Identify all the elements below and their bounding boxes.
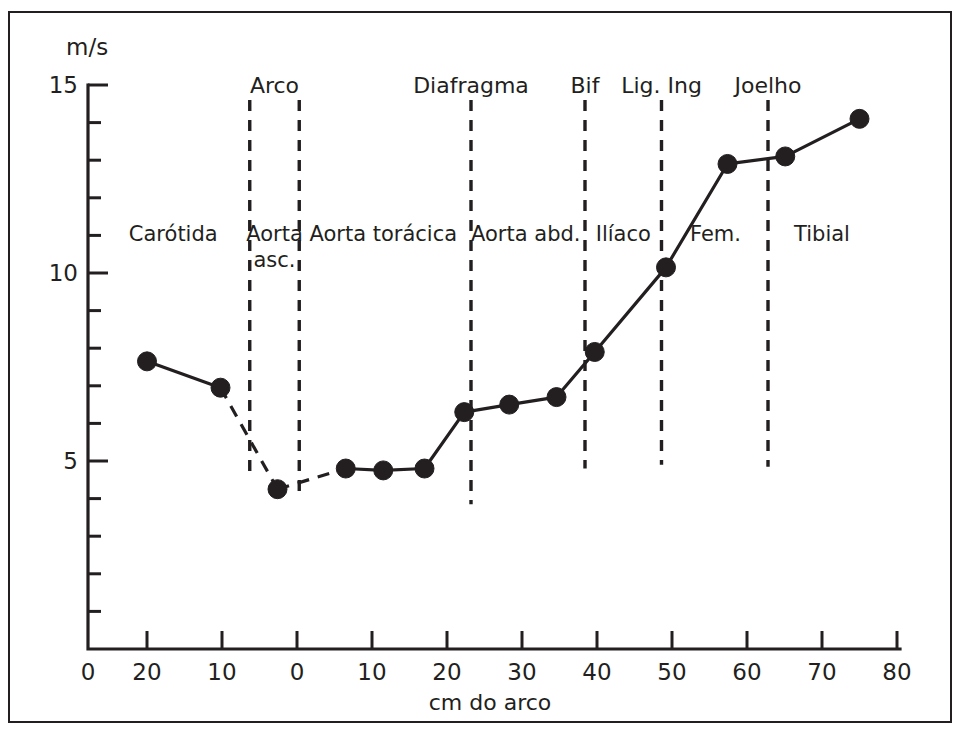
x-tick-label-7: 40 [582,659,611,685]
x-tick-label-1: 20 [132,659,161,685]
series-segment-9 [595,267,666,352]
y-tick-label-5: 5 [63,448,78,474]
y-tick-label-10: 10 [49,260,78,286]
x-tick-label-9: 60 [732,659,761,685]
axes-group [88,85,900,649]
data-point-3 [336,459,355,478]
data-point-11 [718,154,737,173]
x-tick-label-0: 0 [81,659,96,685]
y-axis-tick-labels: 51015 [49,72,78,474]
landmark-label-arco: Arco [250,73,299,98]
x-tick-label-5: 20 [432,659,461,685]
data-point-12 [776,147,795,166]
x-tick-label-11: 80 [882,659,911,685]
landmark-label-bif: Bif [571,73,601,98]
landmark-label-joelho: Joelho [733,73,802,98]
series-segment-12 [785,119,859,157]
data-point-5 [415,459,434,478]
region-label-aorta-abd: Aorta abd. [471,222,580,246]
data-point-6 [455,403,474,422]
x-axis-tick-labels: 0201001020304050607080 [81,659,912,685]
region-label-il-aco: Ilíaco [596,222,651,246]
series-segment-2 [278,469,346,490]
region-label-car-tida: Carótida [129,222,218,246]
x-axis-title: cm do arco [429,690,552,715]
region-label-aorta-tor-cica: Aorta torácica [309,222,457,246]
vessel-region-labels: CarótidaAortaasc.Aorta torácicaAorta abd… [129,222,850,272]
y-axis-unit-label: m/s [66,34,108,60]
data-point-2 [268,480,287,499]
data-point-0 [138,352,157,371]
data-point-8 [547,388,566,407]
series-data-markers [138,109,870,498]
region-label-fem: Fem. [690,222,741,246]
data-point-4 [374,461,393,480]
landmark-label-diafragma: Diafragma [413,73,529,98]
y-tick-label-15: 15 [49,72,78,98]
data-point-1 [211,378,230,397]
x-tick-label-2: 10 [207,659,236,685]
x-axis-ticks [147,631,897,649]
x-tick-label-3: 0 [290,659,305,685]
region-label-asc: asc. [253,248,295,272]
axis-lines [88,85,900,649]
x-tick-label-6: 30 [507,659,536,685]
series-segment-5 [425,412,465,468]
data-point-13 [850,109,869,128]
series-segment-10 [666,164,728,267]
x-tick-label-10: 70 [807,659,836,685]
figure-page: 51015 0201001020304050607080 m/s cm do a… [0,0,964,744]
region-divider-lines [250,100,768,504]
series-line-segments [147,119,860,489]
y-axis-ticks [88,85,108,611]
x-tick-label-4: 10 [357,659,386,685]
landmark-labels: ArcoDiafragmaBifLig. IngJoelho [250,73,802,98]
region-label-aorta: Aorta [246,222,303,246]
x-tick-label-8: 50 [657,659,686,685]
data-point-10 [657,258,676,277]
data-point-7 [500,395,519,414]
data-point-9 [585,342,604,361]
wave-velocity-chart: 51015 0201001020304050607080 m/s cm do a… [0,0,964,744]
landmark-label-lig-ing: Lig. Ing [621,73,702,98]
series-segment-0 [147,361,221,387]
region-label-tibial: Tibial [793,222,850,246]
